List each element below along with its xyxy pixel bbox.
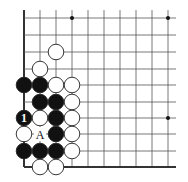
black-stone: [48, 143, 64, 159]
black-stone: [16, 143, 32, 159]
black-stone: [32, 77, 48, 93]
black-stone: [48, 94, 64, 110]
white-stone: [64, 77, 80, 93]
black-stone: [16, 77, 32, 93]
point-labels: A: [34, 127, 46, 142]
black-stone: [32, 143, 48, 159]
black-stone: 1: [16, 110, 32, 126]
move-number-label: 1: [21, 111, 27, 125]
star-point: [70, 16, 74, 20]
stones: 1: [16, 44, 80, 175]
star-point: [166, 116, 170, 120]
white-stone: [16, 126, 32, 142]
white-stone: [64, 110, 80, 126]
go-board: 1 A: [0, 0, 188, 182]
black-stone: [48, 126, 64, 142]
black-stone: [32, 94, 48, 110]
white-stone: [64, 94, 80, 110]
star-point: [166, 16, 170, 20]
white-stone: [32, 159, 48, 175]
white-stone: [32, 110, 48, 126]
white-stone: [48, 44, 64, 60]
white-stone: [48, 159, 64, 175]
white-stone: [48, 77, 64, 93]
black-stone: [48, 110, 64, 126]
white-stone: [64, 143, 80, 159]
point-label-a: A: [36, 128, 45, 142]
white-stone: [32, 61, 48, 77]
white-stone: [64, 126, 80, 142]
